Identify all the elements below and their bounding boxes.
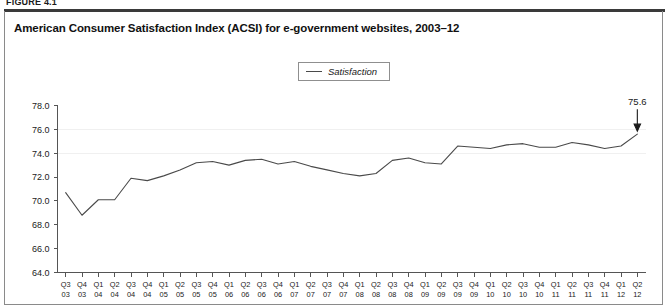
x-axis-tick-label-quarter: Q4 (338, 280, 348, 289)
x-axis-tick-label-quarter: Q3 (583, 280, 593, 289)
x-axis-tick-label-quarter: Q1 (355, 280, 365, 289)
x-axis-tick-label-year: 09 (437, 290, 445, 299)
x-axis-tick-label-quarter: Q4 (273, 280, 283, 289)
x-axis-tick-label-quarter: Q1 (93, 280, 103, 289)
y-axis-tick-label: 74.0 (32, 149, 50, 159)
y-axis-tick-label: 76.0 (32, 125, 50, 135)
x-axis-tick-label-year: 04 (94, 290, 102, 299)
x-axis-tick-label-quarter: Q1 (551, 280, 561, 289)
x-axis-tick-label-quarter: Q3 (453, 280, 463, 289)
x-axis-tick-label-year: 04 (143, 290, 151, 299)
x-axis: Q303Q403Q104Q204Q304Q404Q105Q205Q305Q405… (58, 273, 646, 299)
x-axis-tick-label-year: 07 (339, 290, 347, 299)
x-axis-tick-label-quarter: Q1 (224, 280, 234, 289)
x-axis-tick-label-year: 09 (421, 290, 429, 299)
x-axis-tick-label-quarter: Q3 (518, 280, 528, 289)
x-axis-tick-label-year: 09 (454, 290, 462, 299)
x-axis-tick-label-quarter: Q4 (208, 280, 218, 289)
x-axis-tick-label-year: 05 (160, 290, 168, 299)
x-axis-tick-label-year: 03 (62, 290, 70, 299)
data-series-satisfaction (66, 134, 638, 215)
series-line-satisfaction (66, 134, 638, 215)
x-axis-tick-label-quarter: Q1 (289, 280, 299, 289)
x-axis-tick-label-year: 10 (503, 290, 511, 299)
x-axis-tick-label-quarter: Q2 (240, 280, 250, 289)
y-axis-tick-label: 66.0 (32, 244, 50, 254)
x-axis-tick-label-year: 05 (192, 290, 200, 299)
x-axis-tick-label-year: 10 (535, 290, 543, 299)
y-axis: 64.066.068.070.072.074.076.078.0 (32, 101, 58, 278)
x-axis-tick-label-quarter: Q4 (534, 280, 544, 289)
x-axis-tick-label-quarter: Q4 (404, 280, 414, 289)
x-axis-tick-label-quarter: Q3 (191, 280, 201, 289)
x-axis-tick-label-year: 05 (176, 290, 184, 299)
x-axis-tick-label-quarter: Q1 (159, 280, 169, 289)
x-axis-tick-label-year: 11 (568, 290, 576, 299)
x-axis-tick-label-quarter: Q3 (322, 280, 332, 289)
end-point-annotation: 75.6 (628, 96, 647, 131)
x-axis-tick-label-quarter: Q4 (469, 280, 479, 289)
x-axis-tick-label-year: 07 (307, 290, 315, 299)
x-axis-tick-label-year: 06 (258, 290, 266, 299)
y-axis-tick-label: 78.0 (32, 101, 50, 111)
x-axis-tick-label-year: 11 (601, 290, 609, 299)
chart-faint-gridlines (58, 129, 646, 153)
x-axis-tick-label-quarter: Q2 (110, 280, 120, 289)
x-axis-tick-label-year: 08 (405, 290, 413, 299)
x-axis-tick-label-quarter: Q1 (485, 280, 495, 289)
x-axis-tick-label-quarter: Q2 (306, 280, 316, 289)
y-axis-tick-label: 70.0 (32, 196, 50, 206)
x-axis-tick-label-year: 07 (290, 290, 298, 299)
x-axis-tick-label-quarter: Q2 (175, 280, 185, 289)
x-axis-tick-label-quarter: Q2 (371, 280, 381, 289)
x-axis-tick-label-quarter: Q1 (616, 280, 626, 289)
y-axis-tick-label: 64.0 (32, 268, 50, 278)
x-axis-tick-label-quarter: Q2 (632, 280, 642, 289)
x-axis-tick-label-year: 03 (78, 290, 86, 299)
x-axis-tick-label-year: 04 (127, 290, 135, 299)
annotation-value-label: 75.6 (628, 96, 647, 107)
x-axis-tick-label-quarter: Q4 (77, 280, 87, 289)
x-axis-tick-label-year: 04 (111, 290, 119, 299)
y-axis-tick-label: 68.0 (32, 220, 50, 230)
x-axis-tick-label-quarter: Q2 (436, 280, 446, 289)
x-axis-tick-label-year: 08 (356, 290, 364, 299)
x-axis-tick-label-year: 06 (241, 290, 249, 299)
x-axis-tick-label-year: 10 (486, 290, 494, 299)
x-axis-tick-label-quarter: Q2 (502, 280, 512, 289)
x-axis-tick-label-year: 12 (633, 290, 641, 299)
x-axis-tick-label-year: 08 (372, 290, 380, 299)
x-axis-tick-label-quarter: Q3 (257, 280, 267, 289)
x-axis-tick-label-year: 08 (388, 290, 396, 299)
x-axis-tick-label-quarter: Q2 (567, 280, 577, 289)
x-axis-tick-label-quarter: Q1 (420, 280, 430, 289)
annotation-arrow-head-icon (634, 124, 640, 131)
chart-plot-area: 64.066.068.070.072.074.076.078.0 Q303Q40… (0, 0, 669, 306)
x-axis-tick-label-quarter: Q4 (600, 280, 610, 289)
x-axis-tick-label-quarter: Q3 (126, 280, 136, 289)
y-axis-tick-label: 72.0 (32, 172, 50, 182)
x-axis-tick-label-year: 11 (584, 290, 592, 299)
x-axis-tick-label-year: 07 (323, 290, 331, 299)
x-axis-tick-label-quarter: Q3 (61, 280, 71, 289)
x-axis-tick-label-year: 09 (470, 290, 478, 299)
x-axis-tick-label-year: 06 (274, 290, 282, 299)
x-axis-tick-label-year: 05 (209, 290, 217, 299)
x-axis-tick-label-quarter: Q4 (142, 280, 152, 289)
x-axis-tick-label-year: 11 (552, 290, 560, 299)
x-axis-tick-label-year: 06 (225, 290, 233, 299)
figure-container: FIGURE 4.1 American Consumer Satisfactio… (0, 0, 669, 306)
x-axis-tick-label-year: 12 (617, 290, 625, 299)
x-axis-tick-label-quarter: Q3 (387, 280, 397, 289)
x-axis-tick-label-year: 10 (519, 290, 527, 299)
